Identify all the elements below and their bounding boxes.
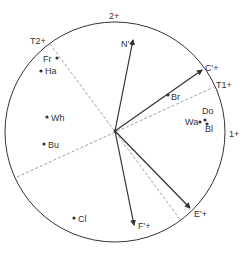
point-marker-br [166,93,169,96]
vector-arrows: N'+C'+E'+F'+ [114,39,219,231]
point-marker-bu [42,142,45,145]
point-marker-wa [198,120,201,123]
point-marker-cl [72,216,75,219]
point-marker-ha [39,69,42,72]
point-marker-wh [45,115,48,118]
axis-label-axis-t1: T1+ [216,80,232,90]
origin-point [114,130,117,133]
vector-arrow-e [115,131,190,208]
point-label-cl: Cl [78,214,87,224]
vector-arrow-n [115,40,133,131]
point-label-br: Br [171,92,180,102]
point-label-do: Do [202,106,214,116]
point-label-ha: Ha [45,66,57,76]
point-label-fr: Fr [43,54,52,64]
axis-label-axis-1: 1+ [229,129,239,139]
point-label-bl: Bl [205,124,213,134]
vector-label-n: N'+ [121,39,134,49]
vector-label-e: E'+ [194,209,207,219]
biplot-diagram: N'+C'+E'+F'+ FrHaWhBuClBrDoWaBl 1+2+T1+T… [0,0,248,253]
point-marker-fr [55,56,58,59]
point-label-wh: Wh [51,113,65,123]
axis-label-axis-2: 2+ [109,11,119,21]
sample-points: FrHaWhBuClBrDoWaBl [39,54,213,224]
point-label-bu: Bu [48,140,59,150]
vector-label-f: F'+ [138,221,150,231]
axis-label-axis-t2: T2+ [30,36,46,46]
point-marker-do [203,118,206,121]
point-label-wa: Wa [185,117,198,127]
vector-label-c: C'+ [205,63,218,73]
